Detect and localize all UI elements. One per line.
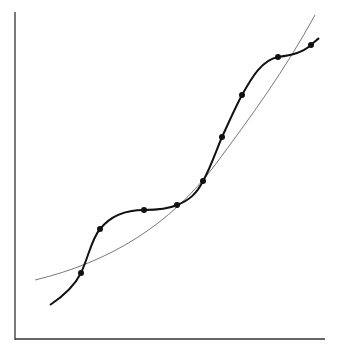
data-point	[141, 207, 147, 213]
data-point	[219, 134, 225, 140]
data-point	[308, 42, 314, 48]
interpolating-curve	[50, 38, 319, 305]
data-point	[239, 92, 245, 98]
data-point	[78, 270, 84, 276]
fit-curve	[35, 15, 315, 280]
data-point	[97, 226, 103, 232]
data-points	[78, 42, 314, 276]
data-point	[275, 54, 281, 60]
data-point	[174, 202, 180, 208]
chart-canvas	[0, 0, 339, 351]
data-point	[200, 178, 206, 184]
